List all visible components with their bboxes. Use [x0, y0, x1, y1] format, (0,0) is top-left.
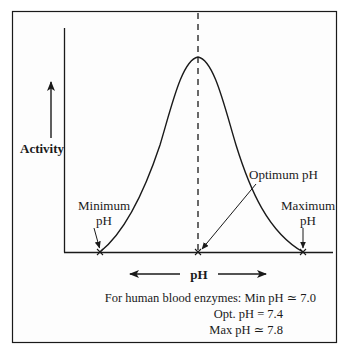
ph-activity-diagram: Activity Minimum pH Optimum pH Maximum p…: [0, 0, 351, 354]
minimum-label-line2: pH: [96, 213, 112, 228]
optimum-label: Optimum pH: [249, 167, 318, 182]
note-line-3: Max pH ≃ 7.8: [209, 323, 283, 337]
activity-label: Activity: [20, 141, 65, 156]
minimum-label-line1: Minimum: [78, 198, 130, 213]
maximum-label-line2: pH: [300, 213, 316, 228]
ph-axis-label: pH: [190, 267, 207, 282]
note-line-2: Opt. pH = 7.4: [214, 307, 284, 321]
note-line-1: For human blood enzymes: Min pH ≃ 7.0: [105, 291, 316, 305]
maximum-label-line1: Maximum: [281, 198, 335, 213]
